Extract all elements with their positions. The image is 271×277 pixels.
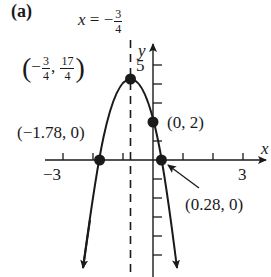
axis-eq-fraction: 34 (114, 8, 122, 35)
axis-eq-lhs: x (78, 10, 86, 29)
axis-eq-minus: − (104, 10, 114, 29)
fraction-denominator: 4 (115, 22, 121, 35)
left-x-intercept-label: (−1.78, 0) (17, 124, 85, 141)
x-tick-label-neg3: −3 (43, 166, 61, 183)
y-intercept-point (148, 117, 159, 128)
vertex-comma: , (51, 57, 55, 76)
axis-of-symmetry-label: x = −34 (78, 8, 123, 35)
x-tick-label-3: 3 (238, 166, 247, 183)
vertex-point (125, 74, 136, 85)
y-tick-label-5: 5 (136, 57, 145, 74)
right-x-intercept-point (156, 155, 167, 166)
vertex-y-fraction: 174 (60, 55, 74, 82)
part-label: (a) (11, 2, 32, 20)
parabola-left-arrow (83, 220, 90, 268)
axis-eq-sign: = (90, 10, 100, 29)
fraction-denominator: 4 (43, 69, 49, 82)
right-x-intercept-label: (0.28, 0) (185, 196, 243, 213)
fraction-numerator: 3 (42, 55, 50, 69)
fraction-numerator: 17 (60, 55, 74, 69)
fraction-denominator: 4 (64, 69, 70, 82)
left-x-intercept-point (94, 155, 105, 166)
x-axis-label: x (261, 140, 269, 157)
vertex-x-sign: − (31, 57, 41, 76)
vertex-x-fraction: 34 (42, 55, 50, 82)
y-intercept-label: (0, 2) (167, 114, 204, 131)
fraction-numerator: 3 (114, 8, 122, 22)
pointer-arrow (168, 165, 199, 188)
vertex-label: (−34, 174) (22, 54, 85, 82)
